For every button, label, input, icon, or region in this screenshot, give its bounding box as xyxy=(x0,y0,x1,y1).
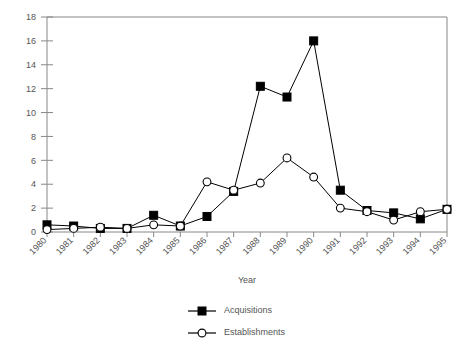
y-tick-label: 18 xyxy=(26,12,36,22)
x-tick-label: 1990 xyxy=(294,235,315,256)
y-tick-label: 14 xyxy=(26,60,36,70)
x-tick-label: 1994 xyxy=(401,235,422,256)
data-point-circle xyxy=(283,154,291,162)
x-tick-label: 1983 xyxy=(107,235,128,256)
open-circle-icon xyxy=(198,329,206,337)
data-point-circle xyxy=(443,205,451,213)
y-tick-label: 6 xyxy=(31,156,36,166)
y-tick-label: 4 xyxy=(31,179,36,189)
data-point-square xyxy=(283,93,291,101)
y-tick-label: 10 xyxy=(26,108,36,118)
data-point-square xyxy=(150,211,158,219)
x-tick-label: 1985 xyxy=(161,235,182,256)
x-tick-label: 1993 xyxy=(374,235,395,256)
series-line xyxy=(47,41,447,229)
data-point-circle xyxy=(310,173,318,181)
line-chart: 024681012141618 198019811982198319841985… xyxy=(0,0,462,344)
data-point-circle xyxy=(203,178,211,186)
data-point-circle xyxy=(336,204,344,212)
x-tick-label: 1991 xyxy=(321,235,342,256)
x-tick-label: 1988 xyxy=(241,235,262,256)
series-acquisitions xyxy=(43,37,451,233)
chart-legend: AcquisitionsEstablishments xyxy=(188,305,286,337)
x-tick-label: 1980 xyxy=(27,235,48,256)
x-tick-label: 1989 xyxy=(267,235,288,256)
x-tick-label: 1987 xyxy=(214,235,235,256)
x-axis-title: Year xyxy=(238,275,256,285)
y-tick-label: 0 xyxy=(31,227,36,237)
series-layer xyxy=(43,37,451,234)
y-tick-label: 12 xyxy=(26,84,36,94)
x-tick-label: 1992 xyxy=(347,235,368,256)
data-point-circle xyxy=(150,221,158,229)
y-tick-label: 16 xyxy=(26,36,36,46)
x-tick-label: 1995 xyxy=(427,235,448,256)
data-point-circle xyxy=(96,223,104,231)
series-line xyxy=(47,158,447,230)
data-point-square xyxy=(203,212,211,220)
y-axis-ticks: 024681012141618 xyxy=(26,12,53,237)
legend-label: Acquisitions xyxy=(224,305,273,315)
x-axis-ticks: 1980198119821983198419851986198719881989… xyxy=(27,232,448,257)
data-point-circle xyxy=(390,216,398,224)
data-point-circle xyxy=(256,179,264,187)
data-point-circle xyxy=(43,226,51,234)
legend-label: Establishments xyxy=(224,327,286,337)
data-point-square xyxy=(256,82,264,90)
data-point-circle xyxy=(363,208,371,216)
x-tick-label: 1986 xyxy=(187,235,208,256)
y-tick-label: 2 xyxy=(31,203,36,213)
chart-container: 024681012141618 198019811982198319841985… xyxy=(0,0,462,344)
data-point-circle xyxy=(416,208,424,216)
data-point-square xyxy=(310,37,318,45)
series-establishments xyxy=(43,154,451,233)
filled-square-icon xyxy=(198,307,206,315)
data-point-circle xyxy=(123,225,131,233)
x-tick-label: 1982 xyxy=(81,235,102,256)
data-point-circle xyxy=(230,186,238,194)
data-point-circle xyxy=(70,225,78,233)
y-tick-label: 8 xyxy=(31,132,36,142)
x-tick-label: 1984 xyxy=(134,235,155,256)
data-point-circle xyxy=(176,222,184,230)
x-tick-label: 1981 xyxy=(54,235,75,256)
data-point-square xyxy=(336,186,344,194)
